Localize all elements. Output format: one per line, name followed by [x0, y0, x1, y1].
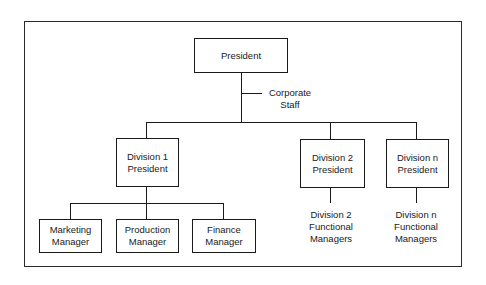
corporate-staff-label: Corporate Staff	[262, 87, 318, 111]
division-1-connector	[146, 122, 147, 139]
president-box: President	[194, 38, 288, 73]
finance-manager-box: Finance Manager	[192, 219, 256, 253]
division-n-down-connector	[416, 187, 417, 203]
division-n-functional-managers: Division n Functional Managers	[380, 209, 452, 245]
production-manager-box: Production Manager	[116, 219, 179, 253]
marketing-manager-box: Marketing Manager	[39, 219, 102, 253]
marketing-connector	[70, 203, 71, 219]
staff-connector	[241, 93, 262, 94]
production-connector	[146, 203, 147, 219]
division-2-connector	[330, 122, 331, 139]
division-bar	[146, 122, 416, 123]
finance-connector	[223, 203, 224, 219]
division-1-president-box: Division 1 President	[116, 138, 179, 187]
division-2-functional-managers: Division 2 Functional Managers	[295, 209, 367, 245]
president-label: President	[221, 50, 261, 62]
president-connector	[241, 72, 242, 122]
division-2-president-box: Division 2 President	[300, 139, 365, 188]
division-n-connector	[416, 122, 417, 139]
division-n-president-box: Division n President	[386, 139, 449, 188]
division-1-down-connector	[146, 186, 147, 203]
division-2-down-connector	[330, 187, 331, 203]
